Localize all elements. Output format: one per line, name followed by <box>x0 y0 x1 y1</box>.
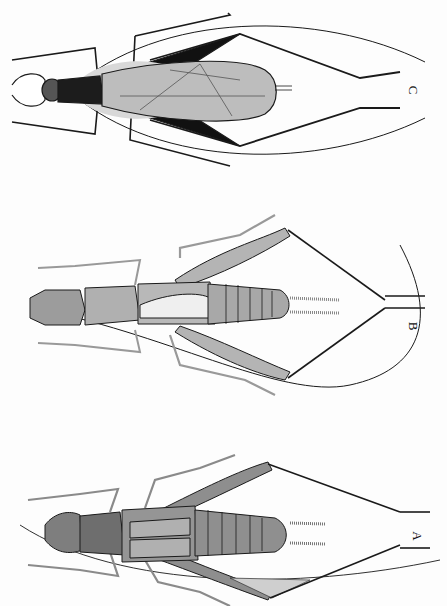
specimen-c-drawing <box>12 13 425 166</box>
specimen-a-drawing <box>20 455 440 606</box>
specimen-label-c: C <box>405 86 421 95</box>
insect-drawings <box>0 0 447 606</box>
specimen-b-drawing <box>30 215 425 395</box>
specimen-label-a: A <box>409 531 425 540</box>
illustration-plate: C B A <box>0 0 447 606</box>
specimen-label-b: B <box>405 322 421 331</box>
